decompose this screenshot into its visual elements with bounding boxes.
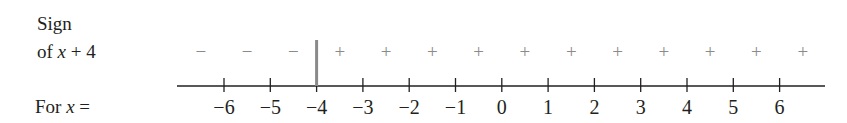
plus-sign: + [705, 41, 716, 62]
plus-sign: + [427, 41, 438, 62]
tick-label: 4 [682, 96, 692, 118]
plus-sign: + [473, 41, 484, 62]
tick-label: −2 [399, 96, 420, 118]
tick-label: 3 [636, 96, 646, 118]
tick-label: −5 [260, 96, 281, 118]
plus-sign: + [658, 41, 669, 62]
plus-sign: + [381, 41, 392, 62]
plus-sign: + [566, 41, 577, 62]
tick-label: −6 [213, 96, 234, 118]
tick-label: 5 [728, 96, 738, 118]
minus-sign: − [288, 41, 299, 62]
plus-sign: + [520, 41, 531, 62]
tick-label: 2 [589, 96, 599, 118]
tick-label: 1 [543, 96, 553, 118]
plus-sign: + [334, 41, 345, 62]
plus-sign: + [612, 41, 623, 62]
plus-sign: + [751, 41, 762, 62]
sign-chart-number-line: −6−5−4−3−2−10123456−−−+++++++++++ [0, 0, 847, 123]
tick-label: 6 [775, 96, 785, 118]
minus-sign: − [242, 41, 253, 62]
plus-sign: + [797, 41, 808, 62]
tick-label: −4 [306, 96, 327, 118]
tick-label: 0 [497, 96, 507, 118]
tick-label: −3 [352, 96, 373, 118]
minus-sign: − [195, 41, 206, 62]
tick-label: −1 [445, 96, 466, 118]
